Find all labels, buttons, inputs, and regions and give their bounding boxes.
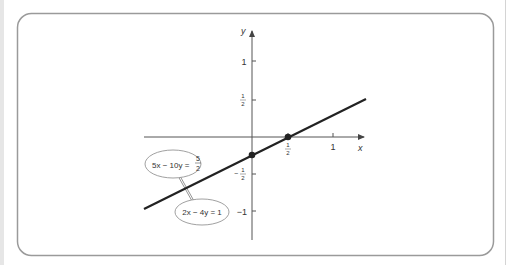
- equation-2-text: 2x − 4y = 1: [182, 208, 222, 217]
- graph-figure: x y 1 1 2 − 1 2 −1 1 2 1 5x − 10y = 5 2 …: [0, 0, 511, 265]
- x-tick-label-half-num: 1: [286, 142, 290, 148]
- y-tick-label-1: 1: [241, 57, 246, 67]
- y-tick-label-half-num: 1: [241, 93, 245, 99]
- y-intercept-point: [249, 152, 256, 159]
- x-axis-label: x: [357, 143, 363, 153]
- x-intercept-point: [285, 134, 292, 141]
- equation-1-lhs: 5x − 10y =: [152, 161, 190, 170]
- y-tick-label-neg-half-sign: −: [234, 170, 238, 177]
- equation-1-rhs-num: 5: [196, 155, 200, 162]
- x-tick-label-half-den: 2: [286, 150, 290, 156]
- y-tick-label-neg-half-den: 2: [241, 175, 245, 181]
- x-tick-label-1: 1: [330, 142, 335, 152]
- figure-frame: [18, 14, 494, 256]
- y-tick-label-neg-1: −1: [237, 207, 247, 217]
- y-tick-label-neg-half-num: 1: [241, 167, 245, 173]
- y-tick-label-half-den: 2: [241, 101, 245, 107]
- equation-1-rhs-den: 2: [196, 165, 200, 172]
- y-axis-label: y: [240, 26, 246, 36]
